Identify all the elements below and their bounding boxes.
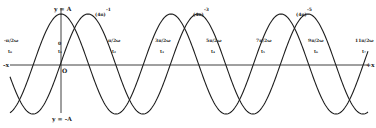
tick-label-3: 3π/2ω t₃: [155, 38, 171, 54]
tick-label-4: 5π/2ω t₄: [206, 38, 222, 54]
svg-text:t₃: t₃: [160, 49, 164, 54]
tick-label-2: π/2ω t₂: [108, 38, 121, 54]
svg-text:t₀: t₀: [8, 49, 12, 54]
svg-text:7π/2ω: 7π/2ω: [256, 38, 272, 43]
y-top-label: y = A: [53, 5, 72, 13]
tick-label-1: 0 t₁: [58, 41, 62, 54]
peak-label-2: (4n) -3: [193, 7, 209, 17]
tick-label-0: -π/2ω t₀: [4, 38, 19, 54]
tick-label-6: 9π/2ω t₆: [308, 38, 324, 54]
x-left-label: -x: [3, 61, 9, 68]
svg-text:t₁: t₁: [58, 49, 62, 54]
svg-text:9π/2ω: 9π/2ω: [308, 38, 324, 43]
svg-text:-π/2ω: -π/2ω: [4, 38, 19, 43]
curve-1: [10, 14, 368, 114]
tick-label-7: 11π/2ω t₇: [355, 38, 374, 54]
svg-text:3π/2ω: 3π/2ω: [155, 38, 171, 43]
peak-label-3: (4n) -5: [296, 7, 312, 17]
svg-text:0: 0: [58, 41, 61, 46]
peak-label-1: (4n) -1: [95, 7, 111, 17]
x-right-label: +x: [366, 61, 375, 68]
svg-text:(4n): (4n): [296, 12, 307, 17]
svg-text:t₅: t₅: [261, 49, 265, 54]
svg-text:t₇: t₇: [362, 49, 366, 54]
svg-text:π/2ω: π/2ω: [108, 38, 121, 43]
svg-text:(4n): (4n): [193, 12, 204, 17]
svg-text:t₄: t₄: [211, 49, 215, 54]
svg-text:11π/2ω: 11π/2ω: [355, 38, 374, 43]
svg-text:(4n): (4n): [95, 12, 106, 17]
svg-text:5π/2ω: 5π/2ω: [206, 38, 222, 43]
svg-text:-3: -3: [204, 7, 209, 12]
waveform-figure: -x +x O y = A y = -A (4n) -1 (4n) -3 (4n…: [0, 0, 376, 128]
y-bottom-label: y = -A: [51, 115, 72, 123]
origin-label: O: [62, 67, 67, 74]
svg-text:-1: -1: [106, 7, 111, 12]
svg-text:-5: -5: [307, 7, 312, 12]
svg-text:t₂: t₂: [112, 49, 116, 54]
svg-text:t₆: t₆: [314, 49, 318, 54]
curve-2: [10, 14, 368, 114]
